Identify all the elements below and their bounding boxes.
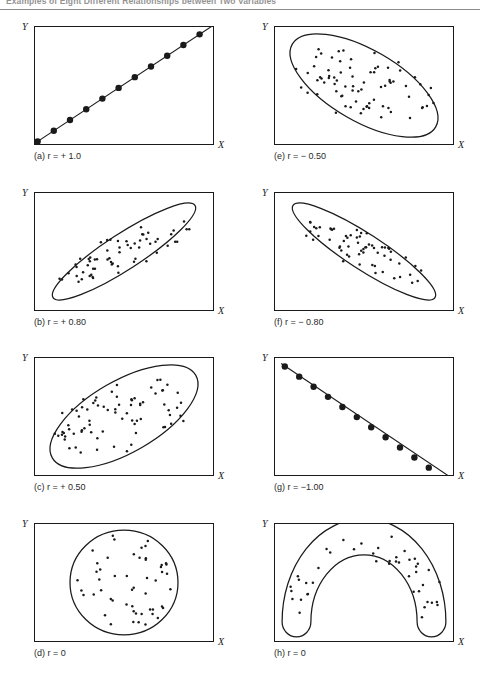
panel-caption-b: (b) r = + 0.80 (34, 317, 86, 327)
data-point (125, 603, 128, 606)
data-point (309, 230, 312, 233)
data-point (145, 558, 148, 561)
data-point (133, 423, 136, 426)
data-point (96, 437, 99, 440)
envelope-c (34, 357, 213, 476)
x-axis-label-b: X (218, 305, 224, 316)
data-point (368, 424, 374, 430)
data-point (74, 263, 77, 266)
data-point (106, 239, 109, 242)
data-point (427, 94, 430, 97)
panel-caption-e: (e) r = − 0.50 (274, 151, 326, 161)
data-point (316, 93, 319, 96)
data-point (403, 550, 406, 553)
envelope-h (282, 523, 446, 637)
data-point (381, 246, 384, 249)
data-point (310, 384, 316, 390)
data-point (344, 105, 347, 108)
panel-grid: YX(a) r = + 1.0YX(e) r = − 0.50YX(b) r =… (0, 14, 480, 691)
data-point (165, 562, 168, 565)
data-point (358, 253, 361, 256)
data-point (169, 588, 172, 591)
data-point (339, 60, 342, 63)
data-point (121, 418, 124, 421)
plot-area-g: YX (274, 357, 454, 476)
data-point (349, 67, 352, 70)
data-point (390, 251, 393, 254)
data-point (341, 94, 344, 97)
data-point (100, 589, 103, 592)
plot-area-h: YX (274, 523, 454, 642)
data-point (377, 66, 380, 69)
data-point (352, 85, 355, 88)
data-point (106, 557, 109, 560)
data-point (383, 254, 386, 257)
data-point (82, 271, 85, 274)
data-point (305, 582, 308, 585)
data-point (82, 594, 85, 597)
data-point (110, 623, 113, 626)
plot-graphic-c (34, 357, 214, 476)
plot-area-d: YX (34, 523, 214, 642)
data-point (138, 557, 141, 560)
data-point (359, 235, 362, 238)
data-point (74, 446, 77, 449)
data-point (374, 265, 377, 268)
data-point (393, 277, 396, 280)
data-point (346, 237, 349, 240)
data-point (349, 234, 352, 237)
data-point (117, 265, 120, 268)
data-point (419, 83, 422, 86)
data-point (118, 404, 121, 407)
data-point (83, 106, 89, 112)
data-point (411, 281, 414, 284)
data-point (409, 117, 412, 120)
data-point (159, 379, 162, 382)
plot-graphic-g (274, 357, 454, 476)
data-point (161, 571, 164, 574)
data-point (349, 106, 352, 109)
data-point (290, 590, 293, 593)
data-point (312, 582, 315, 585)
x-axis-label-g: X (458, 470, 464, 481)
data-point (395, 560, 398, 563)
trend-line-g (281, 364, 452, 476)
data-point (148, 63, 154, 69)
data-point (409, 274, 412, 277)
data-point (323, 81, 326, 84)
data-point (57, 435, 60, 438)
data-point (412, 591, 415, 594)
data-point (377, 547, 380, 550)
envelope-e (274, 26, 453, 145)
data-point (335, 90, 338, 93)
data-point (94, 258, 97, 261)
data-point (54, 432, 57, 435)
data-point (61, 434, 64, 437)
data-point (68, 447, 71, 450)
data-point (375, 560, 378, 563)
data-point (89, 256, 92, 259)
data-point (136, 420, 139, 423)
data-point (149, 242, 152, 245)
data-point (360, 112, 363, 115)
data-point (422, 584, 425, 587)
data-point (97, 404, 100, 407)
data-point (81, 429, 84, 432)
data-point (328, 75, 331, 78)
data-point (335, 111, 338, 114)
data-point (160, 564, 163, 567)
data-point (382, 434, 388, 440)
data-point (342, 539, 345, 542)
data-point (180, 402, 183, 405)
data-point (362, 108, 365, 111)
data-point (182, 420, 185, 423)
data-point (170, 423, 173, 426)
x-axis-label-d: X (218, 636, 224, 647)
data-point (104, 614, 107, 617)
data-point (102, 406, 105, 409)
data-point (426, 464, 432, 470)
data-point (414, 76, 417, 79)
data-point (373, 247, 376, 250)
data-point (388, 248, 391, 251)
data-point (76, 579, 79, 582)
